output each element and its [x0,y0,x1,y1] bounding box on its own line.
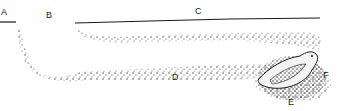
label-b: B [46,11,52,20]
label-f: F [323,71,329,80]
label-e: E [288,98,294,107]
label-c: C [195,7,202,16]
burrow-upper-wall [75,26,321,50]
label-a: A [1,8,7,17]
ground-surface-right [75,18,320,23]
label-d: D [172,73,179,82]
bird-eye [311,55,313,57]
burrow-diagram: A B C D E F [0,0,340,111]
